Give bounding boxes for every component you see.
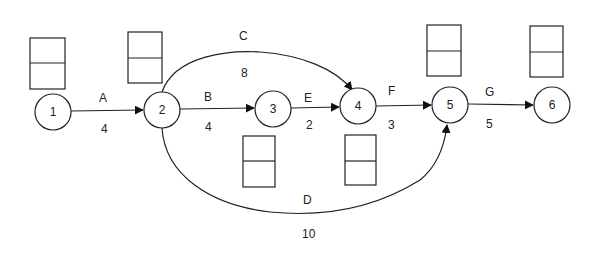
activity-c-name: C [239,29,248,43]
activity-d-name: D [303,193,312,207]
node-4-label: 4 [355,99,362,113]
activity-f-arrow [376,105,431,106]
network-diagram: A 4 B 4 C 8 D 10 E 2 F 3 G 5 1 2 3 4 5 6 [0,0,592,273]
time-box-node-6 [530,26,563,77]
activity-e-duration: 2 [306,118,313,132]
activity-a-arrow [71,110,143,111]
time-box-node-1 [30,38,65,89]
node-3: 3 [255,91,291,127]
activity-e-arrow [291,107,339,108]
node-2-label: 2 [159,103,166,117]
node-5: 5 [432,87,468,123]
activity-f-duration: 3 [388,118,395,132]
activity-g-duration: 5 [486,117,493,131]
activity-e-name: E [304,91,312,105]
activity-c-arrow [162,52,352,92]
activity-a-duration: 4 [101,122,108,136]
node-4: 4 [340,88,376,124]
activity-a-name: A [99,91,107,105]
activity-d-duration: 10 [302,227,316,241]
time-box-node-4 [345,135,376,185]
time-box-node-5 [427,25,461,76]
node-3-label: 3 [270,102,277,116]
node-6: 6 [534,87,570,123]
activity-g-name: G [485,85,494,99]
activity-c-duration: 8 [241,66,248,80]
node-2: 2 [144,92,180,128]
time-box-node-3 [243,136,275,187]
activity-b-name: B [204,90,212,104]
activity-b-arrow [180,108,254,109]
node-5-label: 5 [447,98,454,112]
activity-b-duration: 4 [205,120,212,134]
activity-g-arrow [468,104,533,105]
node-1-label: 1 [50,105,57,119]
node-6-label: 6 [549,98,556,112]
activity-f-name: F [388,84,395,98]
time-box-node-2 [128,32,162,83]
node-1: 1 [35,94,71,130]
